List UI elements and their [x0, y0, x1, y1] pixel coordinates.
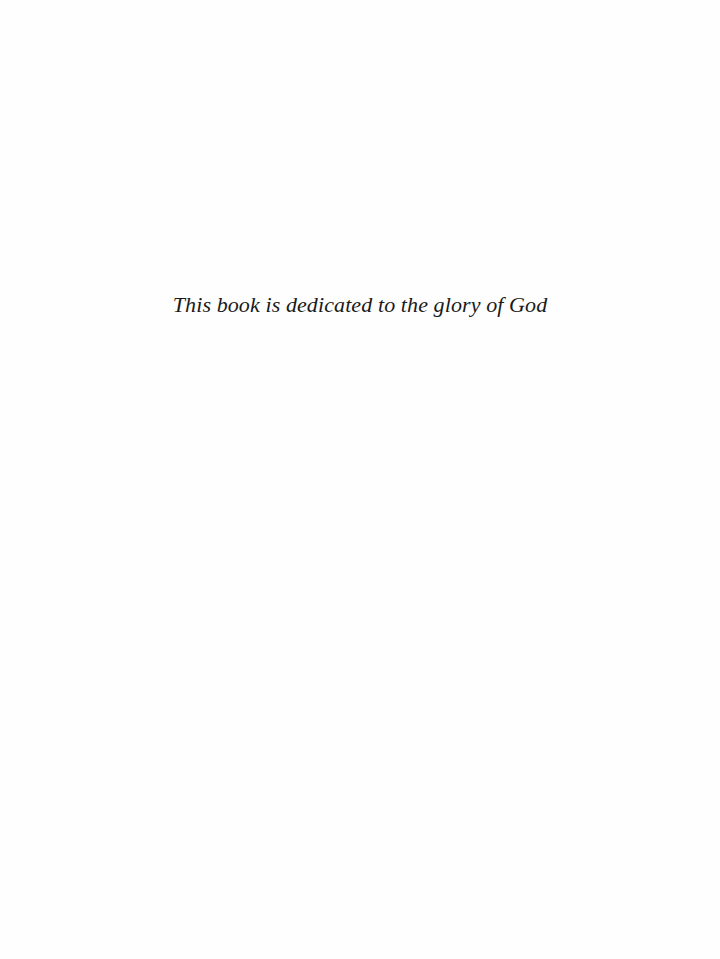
- dedication-text: This book is dedicated to the glory of G…: [0, 291, 720, 319]
- book-page: This book is dedicated to the glory of G…: [0, 0, 720, 959]
